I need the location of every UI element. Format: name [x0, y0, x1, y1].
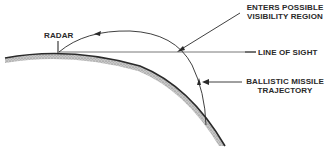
trajectory-label-line2: TRAJECTORY: [243, 86, 327, 95]
trajectory-leader-arrow: [202, 79, 209, 85]
trajectory-label: BALLISTIC MISSILE TRAJECTORY: [243, 77, 327, 95]
trajectory-arrow-upper: [94, 31, 101, 36]
earth-surface: [5, 54, 225, 147]
visibility-label-line1: ENTERS POSSIBLE: [243, 3, 327, 12]
radar-label: RADAR: [44, 31, 73, 40]
visibility-label-line2: VISIBILITY REGION: [243, 12, 327, 21]
line-of-sight-label: LINE OF SIGHT: [258, 48, 318, 57]
visibility-region-label: ENTERS POSSIBLE VISIBILITY REGION: [243, 3, 327, 21]
ballistic-trajectory: [59, 31, 206, 125]
visibility-leader-line: [180, 13, 240, 50]
visibility-leader-arrow: [177, 46, 185, 52]
diagram-canvas: [0, 0, 330, 151]
trajectory-label-line1: BALLISTIC MISSILE: [243, 77, 327, 86]
